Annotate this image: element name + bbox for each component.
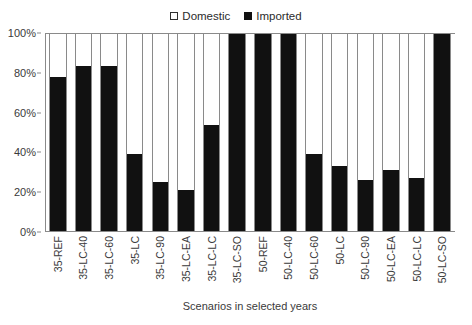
y-tick-label-0: 0% — [20, 226, 36, 238]
bar-segment-domestic[interactable] — [127, 34, 142, 154]
y-tick-mark-20 — [37, 192, 41, 193]
bar-segment-domestic[interactable] — [50, 34, 65, 77]
bar-stack[interactable] — [305, 33, 322, 232]
bar-segment-domestic[interactable] — [409, 34, 424, 178]
bar-slot — [96, 33, 122, 232]
bar-slot — [429, 33, 455, 232]
bar-segment-imported[interactable] — [332, 166, 347, 231]
x-tick-slot: 50-REF — [250, 236, 276, 298]
bar-slot — [404, 33, 430, 232]
x-tick-label: 35-LC — [129, 236, 141, 265]
bar-stack[interactable] — [254, 33, 271, 232]
bar-segment-imported[interactable] — [255, 34, 270, 231]
x-tick-slot: 35-LC-90 — [148, 236, 174, 298]
bar-slot — [148, 33, 174, 232]
x-tick-label: 50-LC-90 — [359, 236, 371, 280]
x-tick-label: 50-LC-60 — [308, 236, 320, 280]
x-tick-label: 50-LC — [334, 236, 346, 265]
bar-slot — [250, 33, 276, 232]
bar-stack[interactable] — [75, 33, 92, 232]
bar-slot — [327, 33, 353, 232]
bar-segment-domestic[interactable] — [178, 34, 193, 190]
x-tick-slot: 50-LC-LC — [404, 236, 430, 298]
y-tick-mark-100 — [37, 33, 41, 34]
bar-stack[interactable] — [100, 33, 117, 232]
bar-stack[interactable] — [203, 33, 220, 232]
bar-stack[interactable] — [433, 33, 450, 232]
legend-item-imported: Imported — [244, 10, 301, 22]
x-tick-label: 35-REF — [52, 236, 64, 272]
x-tick-label: 50-LC-40 — [282, 236, 294, 280]
bar-segment-domestic[interactable] — [76, 34, 91, 66]
bar-slot — [71, 33, 97, 232]
bar-stack[interactable] — [408, 33, 425, 232]
bar-stack[interactable] — [382, 33, 399, 232]
y-tick-mark-60 — [37, 112, 41, 113]
bar-slot — [276, 33, 302, 232]
x-tick-label: 50-LC-SO — [436, 236, 448, 283]
open-square-icon — [170, 12, 178, 20]
bar-segment-imported[interactable] — [178, 190, 193, 231]
legend-item-domestic: Domestic — [170, 10, 230, 22]
bar-stack[interactable] — [152, 33, 169, 232]
x-tick-slot: 50-LC-SO — [429, 236, 455, 298]
bar-segment-domestic[interactable] — [101, 34, 116, 66]
bar-segment-domestic[interactable] — [358, 34, 373, 180]
y-tick-label-100: 100% — [8, 27, 36, 39]
bar-segment-domestic[interactable] — [332, 34, 347, 166]
bar-segment-domestic[interactable] — [306, 34, 321, 154]
x-tick-slot: 50-LC-40 — [276, 236, 302, 298]
bar-stack[interactable] — [126, 33, 143, 232]
x-tick-slot: 50-LC — [327, 236, 353, 298]
y-tick-label-20: 20% — [14, 186, 36, 198]
bar-stack[interactable] — [331, 33, 348, 232]
legend-label-domestic: Domestic — [182, 10, 230, 22]
bar-segment-domestic[interactable] — [383, 34, 398, 170]
bar-segment-imported[interactable] — [50, 77, 65, 231]
y-tick-label-80: 80% — [14, 67, 36, 79]
x-tick-slot: 35-LC-60 — [96, 236, 122, 298]
bar-slot — [378, 33, 404, 232]
x-tick-slot: 35-LC-SO — [224, 236, 250, 298]
y-axis: 0% 20% 40% 60% 80% 100% — [0, 33, 41, 232]
bar-segment-imported[interactable] — [358, 180, 373, 231]
bar-segment-imported[interactable] — [281, 34, 296, 231]
stacked-bar-chart: Domestic Imported 0% 20% 40% 60% 80% 100… — [0, 0, 472, 325]
bar-segment-imported[interactable] — [409, 178, 424, 231]
x-tick-label: 35-LC-LC — [206, 236, 218, 282]
x-tick-label: 50-LC-EA — [385, 236, 397, 282]
y-tick-label-40: 40% — [14, 146, 36, 158]
x-tick-label: 50-LC-LC — [411, 236, 423, 282]
bar-stack[interactable] — [177, 33, 194, 232]
filled-square-icon — [244, 12, 252, 20]
bar-stack[interactable] — [228, 33, 245, 232]
bar-segment-imported[interactable] — [306, 154, 321, 231]
chart-legend: Domestic Imported — [0, 10, 472, 22]
bar-segment-domestic[interactable] — [153, 34, 168, 182]
bar-segment-imported[interactable] — [383, 170, 398, 231]
bar-slot — [45, 33, 71, 232]
bar-segment-imported[interactable] — [204, 125, 219, 231]
bar-stack[interactable] — [280, 33, 297, 232]
bar-segment-imported[interactable] — [127, 154, 142, 231]
bar-segment-imported[interactable] — [229, 34, 244, 231]
x-tick-slot: 50-LC-90 — [353, 236, 379, 298]
bar-segment-imported[interactable] — [101, 66, 116, 231]
x-tick-slot: 50-LC-60 — [301, 236, 327, 298]
bar-stack[interactable] — [49, 33, 66, 232]
bar-slot — [353, 33, 379, 232]
x-tick-slot: 35-LC-LC — [199, 236, 225, 298]
legend-label-imported: Imported — [256, 10, 301, 22]
bar-segment-domestic[interactable] — [204, 34, 219, 125]
bar-segment-imported[interactable] — [153, 182, 168, 231]
y-tick-mark-80 — [37, 72, 41, 73]
x-axis-tick-labels: 35-REF35-LC-4035-LC-6035-LC35-LC-9035-LC… — [45, 236, 455, 298]
bar-stack[interactable] — [357, 33, 374, 232]
x-tick-label: 35-LC-SO — [231, 236, 243, 283]
bars-container — [45, 33, 455, 232]
bar-segment-imported[interactable] — [434, 34, 449, 231]
bar-segment-imported[interactable] — [76, 66, 91, 231]
x-tick-slot: 50-LC-EA — [378, 236, 404, 298]
x-tick-slot: 35-REF — [45, 236, 71, 298]
bar-slot — [173, 33, 199, 232]
